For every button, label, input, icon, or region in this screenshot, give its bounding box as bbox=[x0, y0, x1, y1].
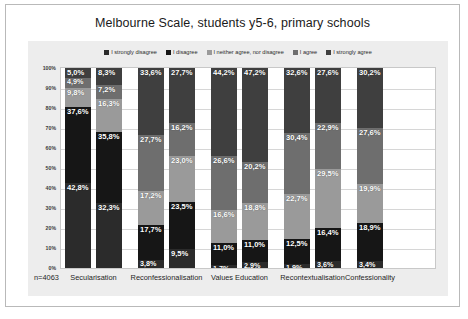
chart-title: Melbourne Scale, students y5-6, primary … bbox=[6, 16, 459, 30]
bar-segment[interactable]: 27,6% bbox=[357, 128, 383, 183]
bar-segment-label: 47,2% bbox=[244, 69, 266, 77]
legend-item[interactable]: I strongly disagree bbox=[104, 49, 157, 55]
y-axis-tick-label: 70% bbox=[46, 125, 56, 131]
bar-segment-label: 16,2% bbox=[171, 124, 193, 132]
bar-segment[interactable]: 23,5% bbox=[169, 202, 195, 249]
bar-segment-label: 23,0% bbox=[171, 157, 193, 165]
bar-segment-label: 16,6% bbox=[213, 211, 235, 219]
bar-segment[interactable]: 8,3% bbox=[96, 68, 122, 85]
bar-column[interactable]: 32,6%30,4%22,7%12,5%1,9% bbox=[284, 68, 310, 268]
bar-segment[interactable]: 12,5% bbox=[284, 239, 310, 264]
y-axis-tick-label: 90% bbox=[46, 85, 56, 91]
bar-segment-label: 29,5% bbox=[317, 170, 339, 178]
legend-swatch-icon bbox=[104, 50, 109, 55]
bar-segment-label: 20,2% bbox=[244, 163, 266, 171]
legend-swatch-icon bbox=[326, 50, 331, 55]
bar-segment[interactable]: 9,8% bbox=[65, 88, 91, 108]
bar-segment[interactable]: 3,4% bbox=[357, 261, 383, 268]
figure-frame: Melbourne Scale, students y5-6, primary … bbox=[5, 4, 460, 307]
bar-segment[interactable]: 1,7% bbox=[211, 265, 237, 268]
bar-segment[interactable]: 27,6% bbox=[315, 68, 341, 123]
bar-segment[interactable]: 11,0% bbox=[242, 240, 268, 262]
bar-segment-label: 37,6% bbox=[67, 108, 89, 116]
bar-segment[interactable]: 42,8% bbox=[65, 183, 91, 269]
bar-column[interactable]: 8,3%7,2%16,3%35,8%32,3% bbox=[96, 68, 122, 268]
bar-segment[interactable]: 20,2% bbox=[242, 162, 268, 202]
bar-column[interactable]: 47,2%20,2%18,8%11,0%2,9% bbox=[242, 68, 268, 268]
chart-legend: I strongly disagreeI disagreeI neither a… bbox=[28, 49, 448, 55]
bar-segment[interactable]: 18,9% bbox=[357, 223, 383, 261]
y-axis-tick-label: 100% bbox=[43, 65, 56, 71]
bar-segment-label: 3,4% bbox=[359, 261, 375, 268]
bar-column[interactable]: 5,0%4,9%9,8%37,6%42,8% bbox=[65, 68, 91, 268]
legend-item[interactable]: I agree bbox=[293, 49, 317, 55]
bar-segment-label: 44,2% bbox=[213, 69, 235, 77]
bar-segment[interactable]: 7,2% bbox=[96, 85, 122, 99]
bar-segment-label: 5,0% bbox=[67, 69, 84, 77]
x-axis: SecularisationReconfessionalisationValue… bbox=[28, 273, 448, 289]
bar-segment[interactable]: 37,6% bbox=[65, 107, 91, 182]
bar-segment[interactable]: 23,0% bbox=[169, 156, 195, 202]
bar-column[interactable]: 27,6%22,9%29,5%16,4%3,6% bbox=[315, 68, 341, 268]
legend-swatch-icon bbox=[293, 50, 298, 55]
bar-column[interactable]: 30,2%27,6%19,9%18,9%3,4% bbox=[357, 68, 383, 268]
bar-segment-label: 4,9% bbox=[67, 78, 83, 85]
bar-segment[interactable]: 1,9% bbox=[284, 264, 310, 268]
bar-segment[interactable]: 16,4% bbox=[315, 228, 341, 261]
bar-segment[interactable]: 47,2% bbox=[242, 68, 268, 162]
legend-item[interactable]: I strongly agree bbox=[326, 49, 372, 55]
legend-item-label: I strongly agree bbox=[333, 49, 372, 55]
bar-segment-label: 17,2% bbox=[140, 192, 162, 200]
bar-segment[interactable]: 2,9% bbox=[242, 262, 268, 268]
legend-item[interactable]: I neither agree, nor disagree bbox=[207, 49, 284, 55]
bar-segment[interactable]: 16,6% bbox=[211, 210, 237, 243]
bar-column[interactable]: 27,7%16,2%23,0%23,5%9,5% bbox=[169, 68, 195, 268]
bar-segment-label: 8,3% bbox=[98, 69, 115, 77]
bar-segment[interactable]: 17,7% bbox=[138, 225, 164, 260]
bar-segment[interactable]: 32,6% bbox=[284, 68, 310, 133]
bar-column[interactable]: 33,6%27,7%17,2%17,7%3,8% bbox=[138, 68, 164, 268]
bar-segment-label: 22,7% bbox=[286, 195, 308, 203]
bar-segment[interactable]: 17,2% bbox=[138, 191, 164, 225]
y-axis-tick-label: 40% bbox=[46, 185, 56, 191]
bar-segment[interactable]: 4,9% bbox=[65, 78, 91, 88]
bar-segment-label: 27,6% bbox=[317, 69, 339, 77]
bar-segment[interactable]: 18,8% bbox=[242, 203, 268, 241]
bar-segment[interactable]: 33,6% bbox=[138, 68, 164, 135]
bar-segment[interactable]: 16,3% bbox=[96, 99, 122, 132]
bar-segment[interactable]: 22,7% bbox=[284, 194, 310, 239]
bar-segment-label: 3,8% bbox=[140, 260, 156, 267]
bar-segment[interactable]: 44,2% bbox=[211, 68, 237, 156]
bar-segment[interactable]: 35,8% bbox=[96, 132, 122, 204]
bar-segment[interactable]: 30,2% bbox=[357, 68, 383, 128]
bar-segment[interactable]: 16,2% bbox=[169, 123, 195, 155]
bar-segment[interactable]: 3,8% bbox=[138, 260, 164, 268]
bar-segment[interactable]: 19,9% bbox=[357, 184, 383, 224]
y-axis-tick-label: 10% bbox=[46, 245, 56, 251]
x-axis-category-label: Recontextualisation bbox=[280, 273, 345, 282]
bar-segment[interactable]: 9,5% bbox=[169, 249, 195, 268]
bar-segment-label: 18,9% bbox=[359, 224, 381, 232]
bars-layer: 5,0%4,9%9,8%37,6%42,8%8,3%7,2%16,3%35,8%… bbox=[61, 68, 435, 268]
bar-segment[interactable]: 26,6% bbox=[211, 156, 237, 209]
y-axis-tick-label: 30% bbox=[46, 205, 56, 211]
bar-segment[interactable]: 11,0% bbox=[211, 243, 237, 265]
bar-segment-label: 23,5% bbox=[171, 203, 193, 211]
x-axis-category-label: Values Education bbox=[211, 273, 268, 282]
bar-segment-label: 35,8% bbox=[98, 133, 120, 141]
bar-segment[interactable]: 3,6% bbox=[315, 261, 341, 268]
legend-swatch-icon bbox=[166, 50, 171, 55]
legend-item-label: I disagree bbox=[173, 49, 198, 55]
bar-column[interactable]: 44,2%26,6%16,6%11,0%1,7% bbox=[211, 68, 237, 268]
bar-segment[interactable]: 30,4% bbox=[284, 133, 310, 194]
bar-segment[interactable]: 29,5% bbox=[315, 169, 341, 228]
legend-item[interactable]: I disagree bbox=[166, 49, 198, 55]
bar-segment-label: 19,9% bbox=[359, 185, 381, 193]
bar-segment[interactable]: 27,7% bbox=[138, 135, 164, 190]
bar-segment[interactable]: 27,7% bbox=[169, 68, 195, 123]
legend-item-label: I strongly disagree bbox=[111, 49, 157, 55]
bar-segment-label: 7,2% bbox=[98, 86, 115, 94]
bar-segment[interactable]: 5,0% bbox=[65, 68, 91, 78]
bar-segment[interactable]: 22,9% bbox=[315, 123, 341, 169]
bar-segment[interactable]: 32,3% bbox=[96, 203, 122, 268]
